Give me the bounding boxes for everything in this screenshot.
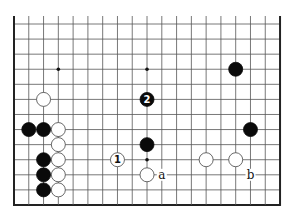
black-stone — [22, 123, 36, 137]
star-point — [145, 67, 149, 71]
move-number: 2 — [144, 94, 151, 105]
white-stone — [37, 92, 51, 106]
white-stone — [229, 153, 243, 167]
black-stone — [37, 123, 51, 137]
white-stone — [51, 183, 65, 197]
point-label-b: b — [247, 168, 255, 182]
black-stone — [243, 123, 257, 137]
white-stone — [199, 153, 213, 167]
white-stone — [51, 153, 65, 167]
move-number: 1 — [114, 154, 121, 165]
white-stone — [140, 168, 154, 182]
star-point — [57, 67, 61, 71]
black-stone — [140, 138, 154, 152]
black-stone — [229, 62, 243, 76]
black-stone — [37, 168, 51, 182]
star-point — [145, 158, 149, 162]
white-stone — [51, 123, 65, 137]
white-stone: 1 — [110, 153, 124, 167]
black-stone — [37, 183, 51, 197]
white-stone — [51, 168, 65, 182]
white-stone — [51, 138, 65, 152]
black-stone — [37, 153, 51, 167]
black-stone: 2 — [140, 92, 154, 106]
go-board: 12 ab — [0, 0, 289, 216]
point-label-a: a — [158, 168, 165, 182]
